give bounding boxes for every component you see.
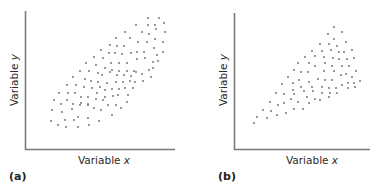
data-point [324, 79, 326, 81]
data-point [308, 62, 310, 64]
data-point [327, 33, 329, 35]
data-point [346, 58, 348, 60]
data-point [345, 73, 347, 75]
data-point [277, 104, 279, 106]
data-point [333, 38, 335, 40]
data-point [298, 79, 300, 81]
data-point [341, 84, 343, 86]
data-point [256, 116, 258, 118]
data-point [348, 65, 350, 67]
data-point [283, 93, 285, 95]
data-point [262, 109, 264, 111]
data-point [333, 70, 335, 72]
panel-tag-b: (b) [218, 170, 236, 183]
data-point [328, 96, 330, 98]
data-point [353, 57, 355, 59]
data-point [351, 76, 353, 78]
data-point [311, 50, 313, 52]
data-point [297, 101, 299, 103]
data-point [297, 62, 299, 64]
data-point [303, 90, 305, 92]
data-point [266, 117, 268, 119]
data-point [276, 114, 278, 116]
data-point [275, 92, 277, 94]
data-point [269, 101, 271, 103]
data-point [308, 81, 310, 83]
data-point [321, 86, 323, 88]
data-point [308, 102, 310, 104]
data-point [329, 92, 331, 94]
scatter-panel-b: Variable y Variable x (b) [0, 0, 390, 192]
data-point [314, 65, 316, 67]
data-point [319, 99, 321, 101]
x-axis-label-b: Variable x [286, 154, 338, 166]
data-point [314, 55, 316, 57]
data-point [343, 51, 345, 53]
data-point [328, 43, 330, 45]
data-point [314, 98, 316, 100]
data-point [307, 71, 309, 73]
data-point [331, 79, 333, 81]
data-point [311, 86, 313, 88]
data-point [345, 41, 347, 43]
data-point [359, 80, 361, 82]
data-point [328, 87, 330, 89]
data-point [270, 110, 272, 112]
y-axis-label-b: Variable y [217, 50, 229, 110]
data-point [323, 70, 325, 72]
data-point [347, 82, 349, 84]
data-point [330, 49, 332, 51]
data-point [336, 92, 338, 94]
data-points-b [253, 26, 361, 124]
data-point [281, 83, 283, 85]
data-point [292, 89, 294, 91]
data-point [332, 57, 334, 59]
data-point [285, 112, 287, 114]
data-point [347, 87, 349, 89]
data-point [335, 87, 337, 89]
data-point [293, 93, 295, 95]
data-point [292, 82, 294, 84]
data-point [306, 96, 308, 98]
data-point [354, 86, 356, 88]
data-point [253, 122, 255, 124]
data-point [336, 45, 338, 47]
data-point [300, 86, 302, 88]
data-point [321, 50, 323, 52]
data-point [319, 43, 321, 45]
data-point [355, 70, 357, 72]
data-point [300, 71, 302, 73]
data-point [340, 74, 342, 76]
data-point [323, 56, 325, 58]
data-point [290, 98, 292, 100]
data-point [338, 58, 340, 60]
data-point [333, 26, 335, 28]
data-point [283, 102, 285, 104]
data-point [331, 65, 333, 67]
data-point [351, 49, 353, 51]
data-point [293, 69, 295, 71]
axes-b [235, 13, 371, 150]
data-point [321, 92, 323, 94]
data-point [341, 31, 343, 33]
data-point [287, 76, 289, 78]
data-point [304, 56, 306, 58]
data-point [324, 62, 326, 64]
data-point [312, 90, 314, 92]
data-point [341, 65, 343, 67]
data-point [317, 78, 319, 80]
data-point [302, 108, 304, 110]
data-point [338, 51, 340, 53]
data-point [293, 108, 295, 110]
data-point [353, 82, 355, 84]
